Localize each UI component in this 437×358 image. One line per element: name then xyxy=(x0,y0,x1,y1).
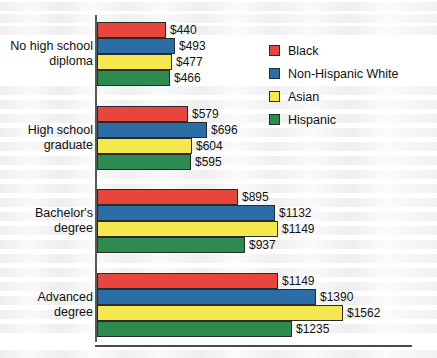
bar-value-label: $937 xyxy=(249,237,276,253)
bar-hispanic-3 xyxy=(97,237,245,253)
group-label-3: Bachelor's degree xyxy=(35,206,93,235)
bar-value-label: $1562 xyxy=(347,305,380,321)
bar-hispanic-1 xyxy=(97,70,170,86)
legend-item-label: Non-Hispanic White xyxy=(288,67,398,81)
bar-asian-4 xyxy=(97,305,343,321)
bar-asian-2 xyxy=(97,138,192,154)
bar-value-label: $466 xyxy=(174,70,201,86)
legend-item-asian: Asian xyxy=(269,87,398,106)
bar-value-label: $1390 xyxy=(320,289,353,305)
bar-black-1 xyxy=(97,22,166,38)
group-label-2: High school graduate xyxy=(28,123,93,152)
bar-value-label: $595 xyxy=(195,154,222,170)
bar-non-hispanic-white-3 xyxy=(97,205,275,221)
bar-non-hispanic-white-4 xyxy=(97,289,316,305)
legend-item-label: Hispanic xyxy=(288,113,336,127)
legend-item-non-hispanic-white: Non-Hispanic White xyxy=(269,64,398,83)
legend-swatch-icon xyxy=(269,114,280,125)
bar-non-hispanic-white-2 xyxy=(97,122,207,138)
bar-asian-1 xyxy=(97,54,172,70)
group-label-4: Advanced degree xyxy=(37,290,93,319)
bar-value-label: $493 xyxy=(179,38,206,54)
legend-swatch-icon xyxy=(269,91,280,102)
legend-swatch-icon xyxy=(269,45,280,56)
bar-black-4 xyxy=(97,273,278,289)
bar-value-label: $895 xyxy=(242,189,269,205)
legend-item-label: Black xyxy=(288,44,319,58)
bar-value-label: $604 xyxy=(196,138,223,154)
bar-value-label: $696 xyxy=(211,122,238,138)
legend-item-label: Asian xyxy=(288,90,319,104)
legend-item-hispanic: Hispanic xyxy=(269,110,398,129)
group-label-1: No high school diploma xyxy=(10,39,93,68)
bar-black-3 xyxy=(97,189,238,205)
bar-non-hispanic-white-1 xyxy=(97,38,175,54)
bar-black-2 xyxy=(97,106,188,122)
legend-item-black: Black xyxy=(269,41,398,60)
bar-value-label: $477 xyxy=(176,54,203,70)
bar-value-label: $1235 xyxy=(296,321,329,337)
bar-value-label: $1149 xyxy=(282,221,314,237)
chart-legend: BlackNon-Hispanic WhiteAsianHispanic xyxy=(269,41,398,133)
legend-swatch-icon xyxy=(269,68,280,79)
x-axis-line xyxy=(95,345,412,347)
bar-value-label: $579 xyxy=(192,106,219,122)
bar-value-label: $1132 xyxy=(279,205,311,221)
bar-hispanic-2 xyxy=(97,154,191,170)
bar-value-label: $1149 xyxy=(282,273,314,289)
bar-hispanic-4 xyxy=(97,321,292,337)
bar-value-label: $440 xyxy=(170,22,197,38)
bar-asian-3 xyxy=(97,221,278,237)
grouped-bar-chart: No high school diploma$440$493$477$466Hi… xyxy=(0,0,437,358)
